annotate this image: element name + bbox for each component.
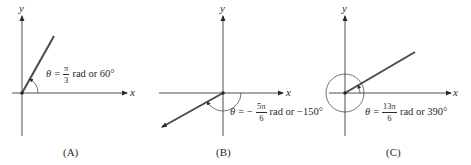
panel-c-caption: (C)	[386, 147, 401, 158]
theta-symbol: θ	[46, 69, 51, 80]
fraction-numerator: 13π	[382, 102, 397, 113]
panel-b-caption: (B)	[216, 147, 231, 158]
angle-fraction: 13π 6	[382, 102, 397, 122]
theta-symbol: θ	[230, 107, 235, 118]
panel-b-terminal-ray	[162, 93, 223, 127]
panel-b-y-label: y	[220, 3, 225, 14]
panel-a-x-label: x	[130, 87, 135, 98]
panel-a-y-label: y	[19, 3, 24, 14]
panel-a-angle-arc	[30, 79, 38, 93]
equals-sign: =	[373, 107, 379, 118]
panel-c-angle-arc	[358, 86, 360, 94]
panel-a-origin-dot	[20, 91, 24, 95]
angle-unit-text: rad or −150°	[270, 107, 323, 118]
panel-c-terminal-ray	[345, 52, 415, 93]
panel-c-x-label: x	[453, 87, 458, 98]
angle-unit-text: rad or 390°	[400, 107, 447, 118]
angle-unit-text: rad or 60°	[72, 69, 114, 80]
angle-fraction: π 3	[63, 64, 69, 84]
minus-sign: −	[247, 107, 253, 118]
fraction-denominator: 6	[387, 113, 391, 123]
panel-c-angle-label: θ = 13π 6 rad or 390°	[365, 102, 447, 122]
fraction-numerator: 5π	[256, 102, 267, 113]
panel-a-caption: (A)	[63, 147, 78, 158]
panel-b-x-label: x	[286, 87, 291, 98]
fraction-denominator: 3	[64, 75, 68, 85]
fraction-numerator: π	[63, 64, 69, 75]
theta-symbol: θ	[365, 107, 370, 118]
panel-a-angle-label: θ = π 3 rad or 60°	[46, 64, 115, 84]
equals-sign: =	[54, 69, 60, 80]
equals-sign: =	[238, 107, 244, 118]
fraction-denominator: 6	[259, 113, 263, 123]
angle-fraction: 5π 6	[256, 102, 267, 122]
panel-c-y-label: y	[342, 3, 347, 14]
panel-b-origin-dot	[221, 91, 225, 95]
panel-c-origin-dot	[343, 91, 347, 95]
panel-b-angle-label: θ = − 5π 6 rad or −150°	[230, 102, 323, 122]
